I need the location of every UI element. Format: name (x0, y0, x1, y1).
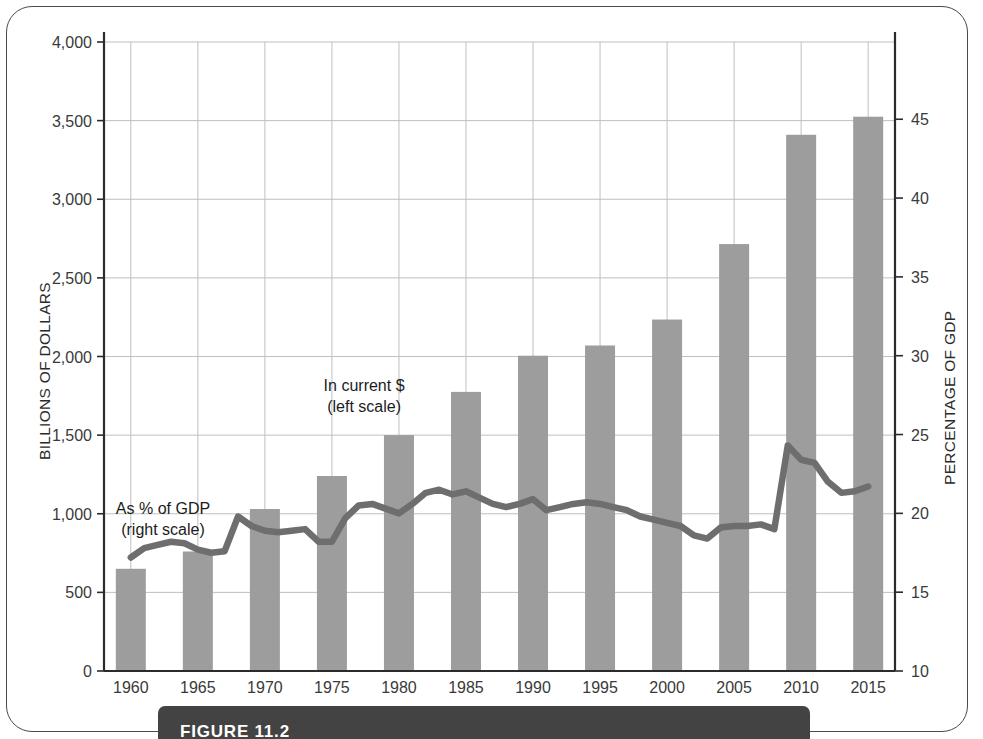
bar (652, 320, 682, 671)
x-axis-tick-labels: 1960196519701975198019851990199520002005… (113, 679, 886, 696)
x-axis-tick-label: 1975 (314, 679, 350, 696)
bar (317, 476, 347, 671)
x-axis-tick-label: 1980 (381, 679, 417, 696)
bar (719, 244, 749, 671)
left-axis-title: BILLIONS OF DOLLARS (36, 282, 53, 460)
right-axis-tick-label: 10 (911, 663, 929, 680)
annotation-line-1: In current $ (324, 377, 405, 394)
right-axis-tick-label: 30 (911, 348, 929, 365)
bar (116, 569, 146, 671)
x-axis-tick-label: 2000 (649, 679, 685, 696)
x-axis-tick-label: 1960 (113, 679, 149, 696)
left-axis-tick-label: 0 (83, 663, 92, 680)
x-axis-tick-label: 1970 (247, 679, 283, 696)
right-axis-tick-labels: 1015202530354045 (911, 111, 929, 680)
right-axis-tick-label: 40 (911, 190, 929, 207)
left-axis-tick-label: 1,000 (52, 506, 92, 523)
x-axis-tick-label: 1965 (180, 679, 216, 696)
chart-canvas: 05001,0001,5002,0002,5003,0003,5004,000 … (0, 0, 983, 739)
left-axis-tick-label: 2,500 (52, 270, 92, 287)
bar (518, 356, 548, 671)
bar (451, 392, 481, 671)
x-axis-tick-label: 1995 (582, 679, 618, 696)
x-axis-tick-label: 2010 (783, 679, 819, 696)
annotation-line-1: As % of GDP (116, 500, 210, 517)
left-axis-tick-label: 3,500 (52, 113, 92, 130)
left-axis-tick-labels: 05001,0001,5002,0002,5003,0003,5004,000 (52, 34, 92, 680)
right-axis-tick-label: 35 (911, 269, 929, 286)
x-axis-tick-label: 2005 (716, 679, 752, 696)
figure-caption-label: FIGURE 11.2 (180, 722, 290, 739)
left-axis-tick-label: 1,500 (52, 427, 92, 444)
left-axis-tick-label: 500 (65, 584, 92, 601)
axes-group (97, 32, 903, 671)
bars-group (116, 117, 883, 671)
x-axis-tick-label: 1985 (448, 679, 484, 696)
bar (384, 435, 414, 671)
bar (853, 117, 883, 671)
left-axis-tick-label: 2,000 (52, 349, 92, 366)
line-series-group (131, 446, 868, 558)
right-axis-title: PERCENTAGE OF GDP (941, 311, 958, 485)
x-axis-tick-label: 1990 (515, 679, 551, 696)
x-axis-tick-label: 2015 (850, 679, 886, 696)
bar (183, 551, 213, 671)
bar (786, 135, 816, 671)
annotation-line-2: (left scale) (327, 398, 401, 415)
left-axis-tick-label: 4,000 (52, 34, 92, 51)
right-axis-tick-label: 20 (911, 505, 929, 522)
left-axis-tick-label: 3,000 (52, 191, 92, 208)
annotation-line-2: (right scale) (121, 521, 205, 538)
dual-axis-chart: 05001,0001,5002,0002,5003,0003,5004,000 … (0, 0, 983, 739)
gridlines-group (104, 42, 895, 671)
figure-caption-bar: FIGURE 11.2 (158, 706, 810, 739)
right-axis-tick-label: 25 (911, 427, 929, 444)
percent-of-gdp-line (131, 446, 868, 558)
right-axis-tick-label: 15 (911, 584, 929, 601)
right-axis-tick-label: 45 (911, 111, 929, 128)
